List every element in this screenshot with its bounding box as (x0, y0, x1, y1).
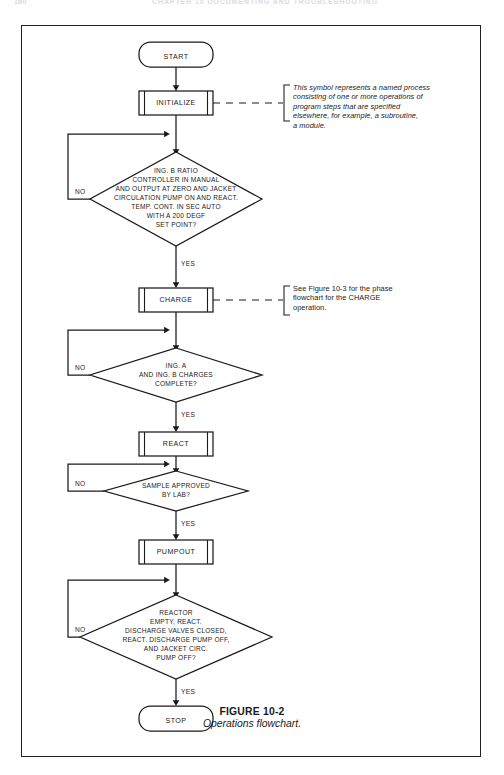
annotation-initialize-line-2: program steps that are specified (293, 102, 475, 111)
decision4-line-2: DISCHARGE VALVES CLOSED, (125, 627, 227, 634)
decision2-line-1: AND ING. B CHARGES (139, 371, 213, 378)
decision1-line-6: SET POINT? (156, 221, 197, 228)
leader-charge-note (213, 286, 290, 315)
decision4-line-0: REACTOR (159, 609, 193, 616)
node-decision4: REACTOR EMPTY, REACT. DISCHARGE VALVES C… (80, 595, 272, 679)
decision1-line-5: WITH A 200 DEGF (147, 212, 206, 219)
figure-title: Operations flowchart. (0, 718, 504, 729)
annotation-charge-line-2: operation. (293, 303, 471, 312)
node-start: START (139, 42, 213, 67)
annotation-charge-line-0: See Figure 10-3 for the phase (293, 284, 471, 293)
decision3-line-0: SAMPLE APPROVED (142, 482, 210, 489)
node-decision2: ING. A AND ING. B CHARGES COMPLETE? (90, 348, 262, 402)
decision1-line-0: ING. B RATIO (154, 167, 198, 174)
decision3-line-1: BY LAB? (162, 491, 190, 498)
decision4-line-1: EMPTY, REACT. (150, 618, 202, 625)
decision3-yes-label: YES (181, 520, 195, 527)
decision2-line-0: ING. A (166, 362, 187, 369)
decision1-line-1: CONTROLLER IN MANUAL (132, 176, 219, 183)
decision4-no-label: NO (75, 626, 86, 633)
decision2-line-2: COMPLETE? (155, 380, 197, 387)
annotation-charge-line-1: flowchart for the CHARGE (293, 293, 471, 302)
node-initialize-label: INITIALIZE (156, 99, 196, 107)
figure-number: FIGURE 10-2 (0, 706, 504, 717)
flowchart-figure: START INITIALIZE ING. B RATIO CONTROLLER… (0, 0, 504, 775)
annotation-charge-note: See Figure 10-3 for the phase flowchart … (293, 284, 471, 312)
bracket-initialize-note (284, 85, 290, 121)
decision1-yes-label: YES (181, 260, 195, 267)
node-charge: CHARGE (139, 288, 213, 312)
decision2-yes-label: YES (181, 411, 195, 418)
decision3-no-label: NO (75, 480, 86, 487)
decision4-line-5: PUMP OFF? (156, 654, 196, 661)
annotation-initialize-line-3: elsewhere, for example, a subroutine, (293, 111, 475, 120)
leader-initialize-note (213, 85, 290, 121)
node-pumpout: PUMPOUT (139, 540, 213, 564)
decision1-line-2: AND OUTPUT AT ZERO AND JACKET (115, 185, 236, 192)
node-pumpout-label: PUMPOUT (157, 548, 196, 556)
decision4-line-3: REACT. DISCHARGE PUMP OFF, (122, 636, 229, 643)
decision4-line-4: AND JACKET CIRC. (144, 645, 208, 652)
node-charge-label: CHARGE (159, 296, 192, 304)
annotation-initialize-line-0: This symbol represents a named process (293, 83, 475, 92)
bracket-charge-note (284, 286, 290, 315)
decision2-no-label: NO (75, 364, 86, 371)
node-initialize: INITIALIZE (139, 91, 213, 115)
annotation-initialize-line-4: a module. (293, 121, 475, 130)
decision1-line-4: TEMP. CONT. IN SEC AUTO (131, 203, 221, 210)
annotation-initialize-line-1: consisting of one or more operations of (293, 92, 475, 101)
annotation-initialize-note: This symbol represents a named process c… (293, 83, 475, 130)
node-decision1: ING. B RATIO CONTROLLER IN MANUAL AND OU… (90, 152, 262, 246)
node-react-label: REACT (163, 440, 190, 448)
decision4-yes-label: YES (181, 688, 195, 695)
node-start-label: START (164, 53, 189, 61)
node-decision3: SAMPLE APPROVED BY LAB? (104, 471, 248, 511)
decision1-line-3: CIRCULATION PUMP ON AND REACT. (114, 194, 238, 201)
figure-caption: FIGURE 10-2 Operations flowchart. (0, 706, 504, 729)
decision1-no-label: NO (75, 188, 86, 195)
node-react: REACT (139, 432, 213, 456)
